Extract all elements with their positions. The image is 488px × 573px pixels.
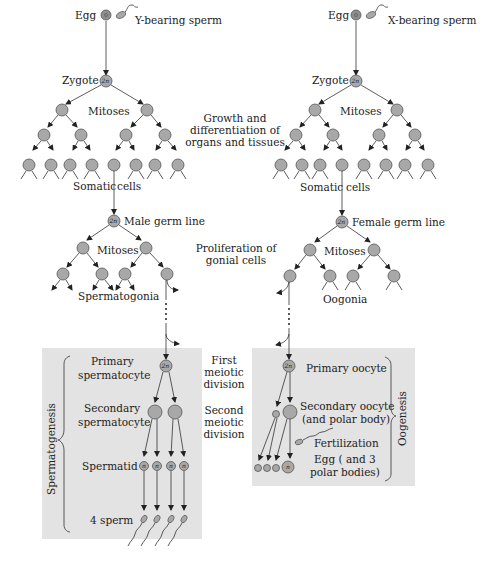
primary-oocyte-label: Primary oocyte (306, 362, 387, 374)
primary-spermatocyte-label-2: spermatocyte (78, 369, 150, 381)
male-somatic-label: Somatic (73, 180, 116, 192)
male-cells-label: cells (117, 180, 141, 192)
svg-text:gonial cells: gonial cells (206, 254, 266, 266)
female-germ-line-label: Female germ line (352, 216, 445, 228)
x-sperm-label: X-bearing sperm (388, 14, 476, 26)
spermatogenesis-label: Spermatogenesis (45, 403, 57, 495)
female-somatic-label: Somatic (300, 181, 343, 193)
primary-spermatocyte-label-1: Primary (91, 355, 134, 367)
male-egg-label: Egg (75, 9, 96, 21)
svg-text:Proliferation of: Proliferation of (196, 242, 278, 254)
svg-text:n: n (155, 462, 159, 469)
spermatogonia-label: Spermatogonia (78, 290, 159, 302)
germline-diagram: Egg Y-bearing sperm Zygote 2n Mitoses (0, 0, 488, 573)
svg-text:organs and tissues: organs and tissues (185, 136, 285, 148)
polar-bodies (255, 465, 280, 472)
spermatid-label: Spermatid (82, 460, 138, 472)
svg-text:2n: 2n (161, 362, 170, 369)
svg-text:2n: 2n (351, 77, 360, 84)
svg-text:division: division (203, 428, 244, 440)
female-mitoses-label: Mitoses (340, 105, 382, 117)
svg-text:First: First (211, 354, 237, 366)
secondary-spermatocyte-label-1: Secondary (84, 402, 140, 414)
oogonia-label: Oogonia (323, 293, 367, 305)
svg-text:Growth and: Growth and (204, 112, 267, 124)
svg-text:2n: 2n (337, 218, 346, 225)
four-sperm-label: 4 sperm (90, 514, 133, 526)
svg-text:n: n (169, 462, 173, 469)
svg-text:n: n (286, 463, 290, 470)
x-sperm-icon (365, 5, 388, 20)
svg-text:2n: 2n (109, 217, 118, 224)
egg-polar-label-1: Egg ( and 3 (314, 453, 376, 465)
female-cells-label: cells (346, 181, 370, 193)
svg-text:Second: Second (204, 404, 243, 416)
secondary-spermatocyte-label-2: spermatocyte (78, 416, 150, 428)
female-somatic-cells (273, 159, 436, 179)
svg-text:meiotic: meiotic (204, 366, 243, 378)
male-mitoses2-label: Mitoses (97, 244, 139, 256)
egg-cell-icon (101, 10, 111, 20)
male-germ-line-label: Male germ line (124, 215, 205, 227)
male-zygote-label: Zygote (62, 74, 99, 86)
secondary-oocyte-label-2: (and polar body) (302, 413, 390, 425)
female-zygote-label: Zygote (312, 74, 349, 86)
svg-text:differentiation of: differentiation of (190, 124, 281, 136)
egg-polar-label-2: polar bodies) (310, 466, 380, 478)
female-lineage: Egg X-bearing sperm Zygote 2n Mitoses (255, 5, 477, 481)
egg-cell-icon (351, 10, 361, 20)
svg-text:n: n (142, 462, 146, 469)
svg-text:n: n (182, 462, 186, 469)
male-mitoses-label: Mitoses (88, 105, 130, 117)
polar-body (273, 411, 280, 418)
secondary-oocyte-label-1: Secondary oocyte (300, 400, 395, 412)
secondary-oocyte-cell (283, 405, 297, 419)
svg-text:2n: 2n (101, 77, 110, 84)
female-egg-label: Egg (328, 9, 349, 21)
svg-text:meiotic: meiotic (204, 416, 243, 428)
male-somatic-cells (21, 159, 186, 179)
fertilization-label: Fertilization (314, 437, 379, 449)
svg-text:2n: 2n (284, 362, 293, 369)
female-mitoses2-label: Mitoses (324, 245, 366, 257)
oogenesis-label: Oogenesis (396, 391, 408, 446)
svg-text:division: division (203, 378, 244, 390)
y-sperm-label: Y-bearing sperm (134, 14, 222, 26)
